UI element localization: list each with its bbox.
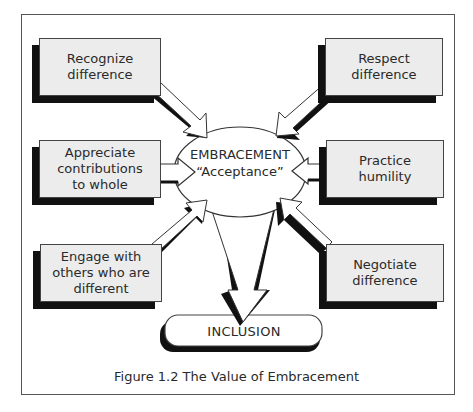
box-respect-difference: Respect difference — [325, 38, 443, 96]
embracement-label: EMBRACEMENT “Acceptance” — [180, 146, 300, 180]
output-arrow-icon — [205, 205, 276, 326]
box-practice-humility: Practice humility — [326, 140, 444, 198]
figure-caption: Figure 1.2 The Value of Embracement — [0, 369, 473, 384]
inclusion-label: INCLUSION — [167, 316, 321, 347]
box-engage-with-others: Engage with others who are different — [40, 244, 162, 302]
embracement-title: EMBRACEMENT — [180, 146, 300, 163]
arrow-negotiate-icon — [276, 198, 332, 254]
box-negotiate-difference: Negotiate difference — [326, 244, 444, 302]
box-recognize-difference: Recognize difference — [39, 38, 161, 96]
box-appreciate-contributions: Appreciate contributions to whole — [39, 140, 161, 198]
embracement-subtitle: “Acceptance” — [180, 163, 300, 180]
